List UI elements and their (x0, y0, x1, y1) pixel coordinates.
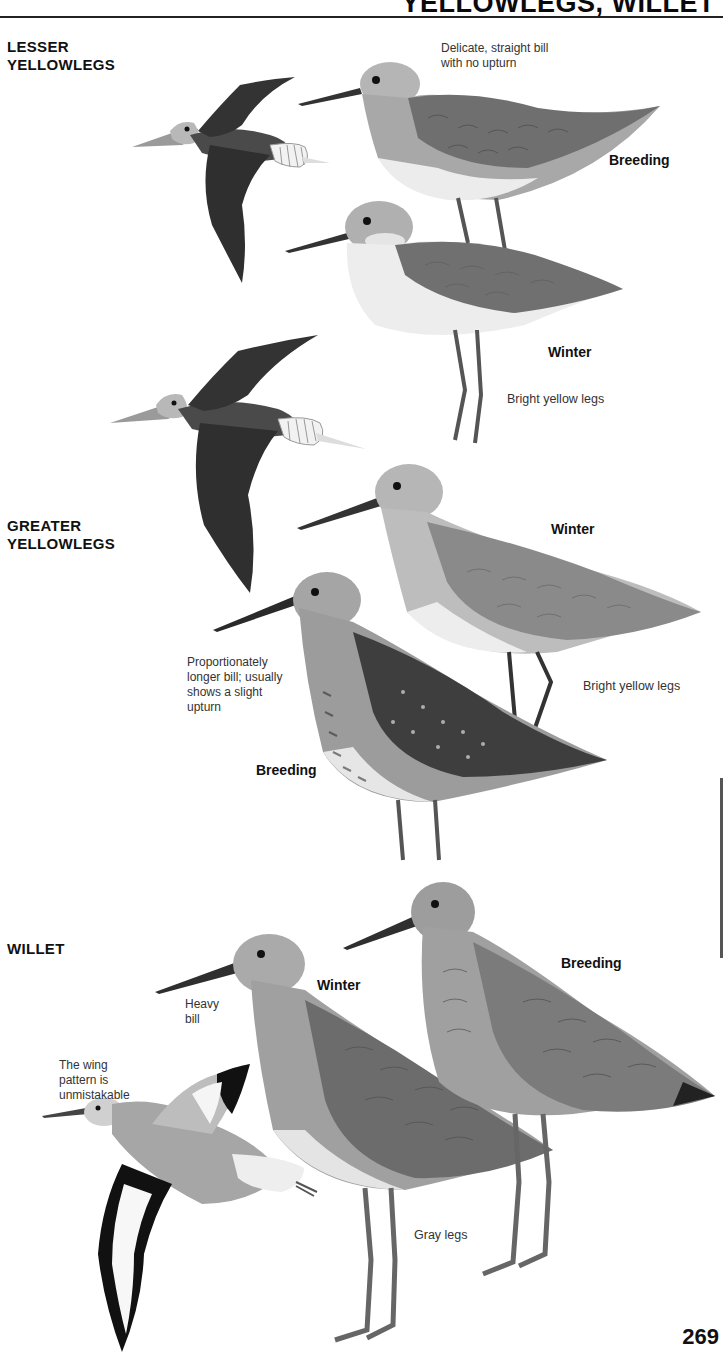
note-line: The wing (59, 1058, 130, 1073)
note-lesser-bill: Delicate, straight bill with no upturn (441, 41, 548, 71)
species-name-line: LESSER (7, 38, 115, 56)
note-line: unmistakable (59, 1088, 130, 1103)
willet-breeding-illustration (343, 882, 718, 1282)
species-label-greater-yellowlegs: GREATER YELLOWLEGS (7, 517, 115, 553)
species-name-line: YELLOWLEGS (7, 535, 115, 553)
header-rule (0, 16, 723, 18)
species-label-lesser-yellowlegs: LESSER YELLOWLEGS (7, 38, 115, 74)
note-greater-bill: Proportionately longer bill; usually sho… (187, 655, 282, 715)
plumage-label-winter: Winter (551, 521, 594, 537)
note-line: pattern is (59, 1073, 130, 1088)
note-line: with no upturn (441, 56, 548, 71)
note-line: longer bill; usually (187, 670, 282, 685)
plumage-label-winter: Winter (317, 977, 360, 993)
species-name-line: GREATER (7, 517, 115, 535)
note-line: Proportionately (187, 655, 282, 670)
page-number: 269 (682, 1324, 719, 1350)
species-label-willet: WILLET (7, 940, 65, 958)
note-legs: Bright yellow legs (583, 679, 680, 694)
species-name-line: YELLOWLEGS (7, 56, 115, 74)
note-line: shows a slight (187, 685, 282, 700)
note-willet-bill: Heavy bill (185, 997, 219, 1027)
note-legs: Gray legs (414, 1228, 468, 1243)
plumage-label-breeding: Breeding (561, 955, 622, 971)
plumage-label-breeding: Breeding (256, 762, 317, 778)
note-line: Delicate, straight bill (441, 41, 548, 56)
note-line: bill (185, 1012, 219, 1027)
greater-yellowlegs-breeding-illustration (213, 572, 608, 862)
note-willet-wing: The wing pattern is unmistakable (59, 1058, 130, 1103)
species-name-line: WILLET (7, 940, 65, 958)
note-legs: Bright yellow legs (507, 392, 604, 407)
note-line: upturn (187, 700, 282, 715)
note-line: Heavy (185, 997, 219, 1012)
plumage-label-breeding: Breeding (609, 152, 670, 168)
plumage-label-winter: Winter (548, 344, 591, 360)
